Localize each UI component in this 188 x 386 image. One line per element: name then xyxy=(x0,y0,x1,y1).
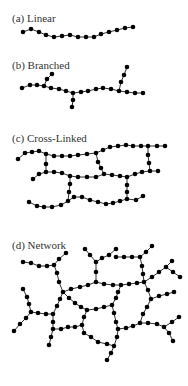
monomer-dot xyxy=(27,302,32,307)
monomer-dot xyxy=(37,172,42,177)
monomer-dot xyxy=(157,270,162,275)
monomer-dot xyxy=(52,170,57,175)
monomer-dot xyxy=(21,30,26,35)
monomer-dot xyxy=(44,162,49,167)
monomer-dot xyxy=(177,315,182,320)
monomer-dot xyxy=(122,73,127,78)
monomer-dot xyxy=(50,205,55,210)
monomer-dot xyxy=(107,30,112,35)
network-polymer xyxy=(12,244,183,363)
monomer-dot xyxy=(111,283,116,288)
monomer-dot xyxy=(51,312,56,317)
monomer-dot xyxy=(73,325,78,330)
monomer-dot xyxy=(162,325,167,330)
monomer-dot xyxy=(66,325,71,330)
monomer-dot xyxy=(89,335,94,340)
monomer-dot xyxy=(72,195,77,200)
monomer-dot xyxy=(171,339,176,344)
monomer-dot xyxy=(29,310,34,315)
monomer-dot xyxy=(170,320,175,325)
monomer-dot xyxy=(23,151,28,156)
monomer-dot xyxy=(142,280,147,285)
monomer-dot xyxy=(114,296,119,301)
monomer-dot xyxy=(172,290,177,295)
monomer-dot xyxy=(112,344,117,349)
monomer-dot xyxy=(139,144,144,149)
monomer-dot xyxy=(155,322,160,327)
monomer-dot xyxy=(138,321,143,326)
monomer-dot xyxy=(133,91,138,96)
monomer-dot xyxy=(29,27,34,32)
monomer-dot xyxy=(68,33,73,38)
monomer-dot xyxy=(104,202,109,207)
monomer-dot xyxy=(94,307,99,312)
monomer-dot xyxy=(102,282,107,287)
monomer-dot xyxy=(147,161,152,166)
monomer-dot xyxy=(155,144,160,149)
branched-polymer-chain xyxy=(20,65,146,110)
monomer-dot xyxy=(55,271,60,276)
monomer-dot xyxy=(49,86,54,91)
monomer-dot xyxy=(124,143,129,148)
monomer-dot xyxy=(35,83,40,88)
monomer-dot xyxy=(146,321,151,326)
monomer-dot xyxy=(76,175,81,180)
monomer-dot xyxy=(109,87,114,92)
monomer-dot xyxy=(125,197,130,202)
monomer-dot xyxy=(85,152,90,157)
monomer-dot xyxy=(131,25,136,30)
monomer-dot xyxy=(42,205,47,210)
monomer-dot xyxy=(171,270,176,275)
monomer-dot xyxy=(133,172,138,177)
monomer-dot xyxy=(111,201,116,206)
monomer-dot xyxy=(37,149,42,154)
monomer-dot xyxy=(140,170,145,175)
monomer-dot xyxy=(141,272,146,277)
monomer-dot xyxy=(134,198,139,203)
monomer-dot xyxy=(118,174,123,179)
monomer-dot xyxy=(88,253,93,258)
monomer-dot xyxy=(84,35,89,40)
monomer-dot xyxy=(69,287,74,292)
monomer-dot xyxy=(131,324,136,329)
panel-label-branched: (b) Branched xyxy=(12,59,70,72)
monomer-dot xyxy=(94,260,99,265)
monomer-dot xyxy=(68,182,73,187)
monomer-dot xyxy=(99,166,104,171)
monomer-dot xyxy=(94,151,99,156)
monomer-dot xyxy=(102,172,107,177)
monomer-dot xyxy=(57,87,62,92)
monomer-dot xyxy=(79,305,84,310)
monomer-dot xyxy=(178,275,183,280)
monomer-dot xyxy=(71,98,76,103)
monomer-dot xyxy=(51,327,56,332)
monomer-dot xyxy=(85,308,90,313)
monomer-dot xyxy=(67,296,72,301)
monomer-dot xyxy=(109,351,114,356)
monomer-dot xyxy=(115,335,120,340)
monomer-dot xyxy=(78,285,83,290)
monomer-dot xyxy=(125,175,130,180)
monomer-dot xyxy=(24,316,29,321)
monomer-dot xyxy=(49,335,54,340)
monomer-dot xyxy=(71,91,76,96)
monomer-dot xyxy=(80,323,85,328)
polymer-structures-diagram: (a) Linear (b) Branched (c) Cross-Linked… xyxy=(0,0,188,386)
monomer-dot xyxy=(146,144,151,149)
monomer-dot xyxy=(60,171,65,176)
monomer-dot xyxy=(76,35,81,40)
monomer-dot xyxy=(114,320,119,325)
monomer-dot xyxy=(44,170,49,175)
monomer-dot xyxy=(44,312,49,317)
monomer-dot xyxy=(12,329,17,334)
monomer-dot xyxy=(68,154,73,159)
monomer-dot xyxy=(60,154,65,159)
panel-branched: (b) Branched xyxy=(12,59,145,109)
monomer-dot xyxy=(101,148,106,153)
monomer-dot xyxy=(150,244,155,249)
monomer-dot xyxy=(52,263,57,268)
monomer-dot xyxy=(114,255,119,260)
monomer-dot xyxy=(82,331,87,336)
monomer-dot xyxy=(105,342,110,347)
monomer-dot xyxy=(125,190,130,195)
